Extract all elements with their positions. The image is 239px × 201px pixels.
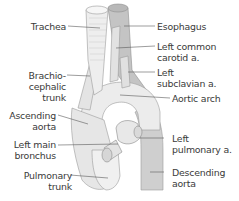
label-left-pulmonary-line2: pulmonary a.	[172, 144, 232, 155]
esophagus-top	[108, 4, 128, 12]
label-esophagus: Esophagus	[157, 21, 206, 32]
label-left-common-carotid-line1: Left common	[157, 41, 216, 52]
label-ascending-aorta-line1: Ascending	[0, 110, 56, 121]
label-ascending-aorta-line2: aorta	[0, 121, 56, 132]
label-trachea: Trachea	[20, 21, 66, 32]
left-common-carotid-shape	[110, 26, 120, 82]
label-aortic-arch: Aortic arch	[172, 93, 221, 104]
label-left-main-bronchus-line1: Left main	[0, 139, 56, 150]
label-pulmonary-trunk-line2: trunk	[10, 181, 72, 192]
label-left-main-bronchus-line2: bronchus	[0, 150, 56, 161]
label-left-pulmonary-line1: Left	[172, 133, 189, 144]
label-left-subclavian-line1: Left	[157, 67, 174, 78]
label-pulmonary-trunk-line1: Pulmonary	[10, 170, 72, 181]
label-descending-aorta-line1: Descending	[172, 167, 225, 178]
label-descending-aorta-line2: aorta	[172, 178, 196, 189]
label-brachiocephalic-trunk-line3: trunk	[6, 92, 66, 103]
label-left-common-carotid-line2: carotid a.	[157, 52, 199, 63]
trachea-top	[86, 6, 108, 14]
label-brachiocephalic-trunk-line2: cephalic	[6, 81, 66, 92]
label-left-subclavian-line2: subclavian a.	[157, 78, 216, 89]
label-brachiocephalic-trunk-line1: Brachio-	[6, 70, 66, 81]
